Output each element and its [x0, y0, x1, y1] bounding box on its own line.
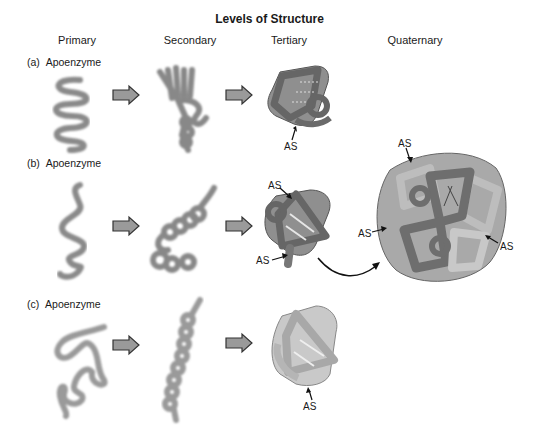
active-site-label: AS — [303, 401, 316, 412]
active-site-label: AS — [398, 138, 411, 149]
row-b-tertiary — [265, 190, 330, 264]
active-site-label: AS — [256, 255, 269, 266]
row-b-quaternary — [377, 153, 506, 281]
row-b-primary-chain — [60, 185, 84, 277]
row-c-secondary-chain — [165, 300, 200, 420]
active-site-label: AS — [284, 141, 297, 152]
row-a-secondary-chain — [160, 68, 206, 150]
diagram-artwork — [0, 0, 539, 443]
arrow-icon — [113, 217, 139, 235]
active-site-label: AS — [358, 228, 371, 239]
row-a-primary-chain — [56, 80, 87, 150]
active-site-label: AS — [500, 241, 513, 252]
row-a-tertiary — [268, 66, 330, 126]
active-site-label: AS — [268, 180, 281, 191]
arrow-icon — [226, 217, 252, 235]
arrow-icon — [113, 336, 139, 354]
row-b-secondary-chain — [153, 188, 214, 270]
arrow-icon — [226, 334, 252, 352]
arrow-icon — [226, 86, 252, 104]
curved-arrow-icon — [318, 258, 376, 276]
row-c-primary-chain — [57, 327, 104, 416]
arrow-icon — [113, 86, 139, 104]
row-c-tertiary — [272, 306, 337, 386]
